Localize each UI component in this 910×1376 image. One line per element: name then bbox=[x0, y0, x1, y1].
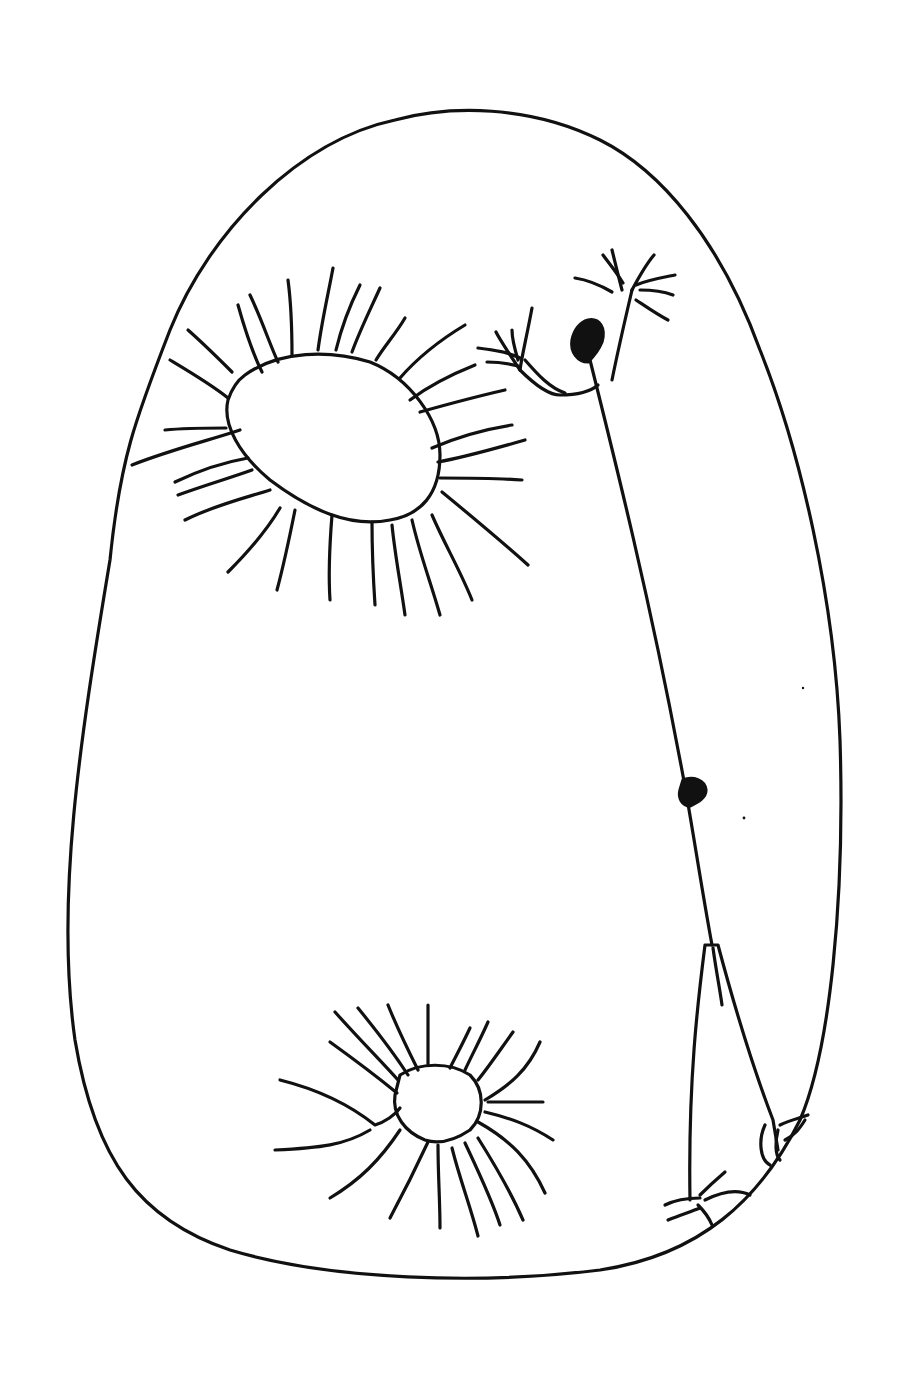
lower-cell bbox=[275, 1005, 553, 1236]
speck bbox=[743, 817, 746, 820]
illustration: Black ink line drawing on white: egg-sha… bbox=[0, 0, 910, 1376]
upper-cell bbox=[165, 268, 528, 615]
terminal-blob bbox=[572, 320, 604, 362]
body-outline bbox=[68, 110, 841, 1278]
branch-tufts bbox=[478, 250, 675, 395]
stalk bbox=[572, 320, 808, 1225]
speck bbox=[802, 687, 804, 689]
mid-knot bbox=[679, 778, 706, 806]
